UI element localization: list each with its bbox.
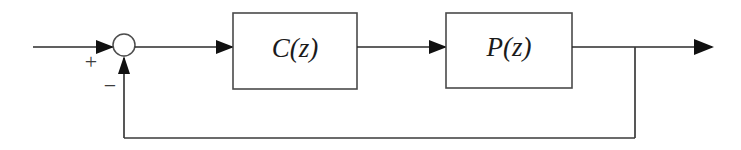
summing-junction-plus-sign: +: [85, 49, 97, 74]
output-arrowhead-icon: [694, 39, 714, 55]
controller-block-label: C(z): [272, 33, 319, 63]
input-arrowhead-icon: [96, 40, 114, 54]
summing-junction-node: [113, 34, 135, 56]
block-diagram-canvas: + − C(z) P(z): [0, 0, 741, 150]
feedback-arrowhead-icon: [118, 56, 130, 74]
block-diagram-figure: + − C(z) P(z): [0, 0, 741, 150]
plant-input-arrowhead-icon: [429, 40, 447, 54]
controller-input-arrowhead-icon: [216, 40, 234, 54]
summing-junction-minus-sign: −: [104, 73, 116, 98]
plant-block-label: P(z): [486, 32, 532, 62]
